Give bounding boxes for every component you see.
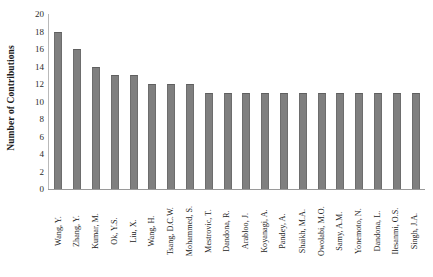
y-axis-tick-label: 18: [35, 27, 44, 36]
bar: [280, 93, 288, 189]
bar: [393, 93, 401, 189]
x-axis-tick-label-text: Pandey, A.: [280, 214, 288, 249]
bar: [205, 93, 213, 189]
x-axis-tick-label-text: Yonemoto, N.: [355, 208, 363, 254]
x-axis-tick-label-text: Shaikh, M.A.: [299, 209, 307, 253]
x-axis-tick-label: Dandona, R.: [222, 191, 233, 277]
x-axis-tick-label-text: Mestrovic, T.: [205, 209, 213, 253]
x-axis-tick-label: Yonemoto, N.: [354, 191, 365, 277]
y-axis-tick-label: 6: [40, 132, 45, 141]
bar: [186, 84, 194, 189]
y-axis-tick-label: 16: [35, 45, 44, 54]
bar: [148, 84, 156, 189]
x-axis-tick-label: Ok, Y.S.: [109, 191, 120, 277]
bar: [261, 93, 269, 189]
y-axis-tick-label: 12: [35, 80, 44, 89]
y-axis-tick-label: 20: [35, 10, 44, 19]
x-axis-tick-label-text: Samy, A.M.: [336, 212, 344, 251]
x-axis-tick-label-text: Arabloo, J.: [242, 213, 250, 249]
bar: [242, 93, 250, 189]
y-axis-tick-label: 10: [35, 97, 44, 106]
bars-layer: [49, 14, 425, 189]
y-axis-tick-label: 2: [40, 167, 45, 176]
x-axis-tick-label-text: Wang, Y.: [54, 216, 62, 246]
x-axis-tick-label-text: Kumar, M.: [92, 213, 100, 249]
x-axis-tick-label-text: Singh, J.A.: [411, 213, 419, 249]
bar-chart: Number of Contributions 2018161412108642…: [0, 0, 433, 277]
x-axis-tick-label-text: Dandona, L.: [374, 211, 382, 252]
y-axis-tick-label: 4: [40, 150, 45, 159]
y-axis-tick-label: 14: [35, 62, 44, 71]
bar: [111, 75, 119, 189]
x-axis-line: [48, 189, 425, 190]
y-axis-title: Number of Contributions: [0, 0, 22, 196]
bar: [92, 67, 100, 190]
bar: [224, 93, 232, 189]
y-axis-tick-labels: 20181614121086420: [22, 14, 47, 190]
x-axis-tick-label: Zhang, Y.: [72, 191, 83, 277]
bar: [167, 84, 175, 189]
bar: [355, 93, 363, 189]
x-axis-tick-label-text: Ok, Y.S.: [111, 217, 119, 244]
y-axis-tick-label: 0: [40, 185, 45, 194]
x-axis-tick-label: Shaikh, M.A.: [297, 191, 308, 277]
x-axis-tick-label-text: Zhang, Y.: [73, 215, 81, 247]
x-axis-tick-label-text: Koyanagi, A.: [261, 209, 269, 252]
x-axis-tick-label: Arabloo, J.: [241, 191, 252, 277]
bar: [73, 49, 81, 189]
bar: [374, 93, 382, 189]
x-axis-tick-label: Singh, J.A.: [410, 191, 421, 277]
x-axis-tick-labels: Wang, Y.Zhang, Y.Kumar, M.Ok, Y.S.Liu, X…: [49, 191, 425, 277]
x-axis-tick-label-text: Dandona, R.: [224, 211, 232, 252]
bar: [299, 93, 307, 189]
bar: [130, 75, 138, 189]
x-axis-tick-label: Kumar, M.: [91, 191, 102, 277]
y-axis-tick-label: 8: [40, 115, 45, 124]
y-axis-title-text: Number of Contributions: [6, 45, 16, 151]
x-axis-tick-label-text: Liu, X.: [129, 219, 137, 242]
x-axis-tick-label: Ilesanmi, O.S.: [391, 191, 402, 277]
bar: [412, 93, 420, 189]
x-axis-tick-label: Liu, X.: [128, 191, 139, 277]
plot-area: [48, 14, 425, 190]
x-axis-tick-label: Dandona, L.: [373, 191, 384, 277]
x-axis-tick-label: Koyanagi, A.: [260, 191, 271, 277]
x-axis-tick-label-text: Mohammed, S.: [186, 206, 194, 256]
x-axis-tick-label-text: Tsang, D.C.W.: [167, 207, 175, 255]
x-axis-tick-label: Pandey, A.: [279, 191, 290, 277]
bar: [54, 32, 62, 190]
bar: [336, 93, 344, 189]
x-axis-tick-label: Tsang, D.C.W.: [166, 191, 177, 277]
x-axis-tick-label-text: Ilesanmi, O.S.: [393, 208, 401, 255]
bar: [318, 93, 326, 189]
x-axis-tick-label-text: Owolabi, M.O.: [318, 206, 326, 256]
x-axis-tick-label: Mestrovic, T.: [203, 191, 214, 277]
x-axis-tick-label-text: Wang, H.: [148, 216, 156, 247]
x-axis-tick-label: Wang, Y.: [53, 191, 64, 277]
x-axis-tick-label: Owolabi, M.O.: [316, 191, 327, 277]
x-axis-tick-label: Mohammed, S.: [185, 191, 196, 277]
x-axis-tick-label: Wang, H.: [147, 191, 158, 277]
x-axis-tick-label: Samy, A.M.: [335, 191, 346, 277]
